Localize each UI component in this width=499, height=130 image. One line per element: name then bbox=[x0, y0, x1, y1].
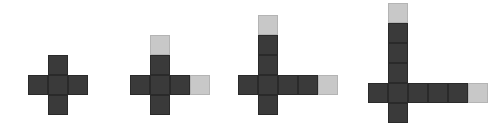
square-light bbox=[388, 3, 408, 23]
square-dark bbox=[368, 83, 388, 103]
square-dark bbox=[408, 83, 428, 103]
square-dark bbox=[388, 23, 408, 43]
square-dark bbox=[448, 83, 468, 103]
square-dark bbox=[388, 103, 408, 123]
square-light bbox=[468, 83, 488, 103]
square-dark bbox=[388, 83, 408, 103]
shape-sequence-figure bbox=[0, 0, 499, 130]
square-dark bbox=[428, 83, 448, 103]
square-dark bbox=[388, 63, 408, 83]
figure-4 bbox=[0, 0, 499, 130]
square-dark bbox=[388, 43, 408, 63]
